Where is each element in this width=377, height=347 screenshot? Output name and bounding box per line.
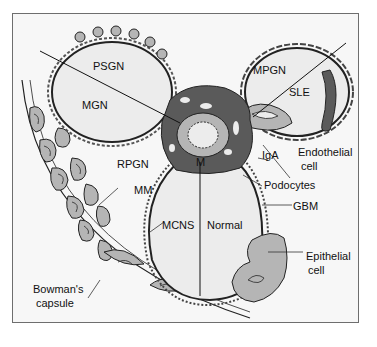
label-bowmans-line1: Bowman's [33,283,83,295]
label-iga: IgA [262,149,279,161]
label-gbm: GBM [293,200,318,212]
capillary-loop-psgn-mgn [52,42,172,142]
label-mcns: MCNS [162,219,194,231]
label-mm: MM [134,184,152,196]
label-endothelial-line1: Endothelial [298,146,352,158]
label-m: M [196,156,205,168]
label-psgn: PSGN [93,60,124,72]
label-mgn: MGN [82,99,108,111]
label-normal: Normal [207,219,242,231]
label-epithelial-line2: cell [308,264,325,276]
label-rpgn: RPGN [117,158,149,170]
label-epithelial-line1: Epithelial [306,250,351,262]
label-mpgn: MPGN [253,64,286,76]
label-bowmans-line2: capsule [36,297,74,309]
label-sle: SLE [289,86,310,98]
label-podocytes: Podocytes [264,179,315,191]
label-endothelial-line2: cell [301,160,318,172]
